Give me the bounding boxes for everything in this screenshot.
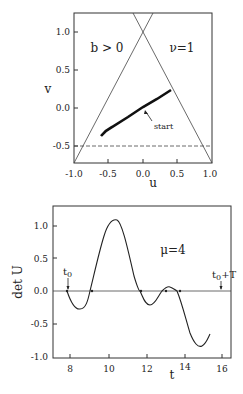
bottom-ytick-1: 1.0 xyxy=(34,221,49,231)
bottom-plot-frame xyxy=(53,206,231,358)
top-ytick-3: 0.0 xyxy=(56,103,71,113)
right-boundary-line xyxy=(133,13,212,163)
t0-label: t0 xyxy=(63,266,72,279)
top-plot: 1.0 0.5 0.0 -0.5 -1.0 -0.5 0.0 0.5 1.0 v… xyxy=(44,13,218,190)
top-xtick-2: -0.5 xyxy=(99,169,117,179)
left-boundary-line xyxy=(74,13,153,163)
bottom-plot: 1.0 0.5 0.0 -0.5 -1.0 8 10 12 14 16 det … xyxy=(11,206,237,382)
bottom-ytick-5: -1.0 xyxy=(31,352,49,362)
region-label: b > 0 xyxy=(91,41,124,55)
t0T-label: t0+T xyxy=(212,269,237,282)
top-xtick-5: 1.0 xyxy=(203,169,218,179)
top-ytick-1: 1.0 xyxy=(56,27,71,37)
top-xtick-1: -1.0 xyxy=(65,169,83,179)
mu-label: μ=4 xyxy=(160,243,186,257)
bottom-ylabel: det U xyxy=(11,265,25,299)
top-xtick-4: 0.5 xyxy=(170,169,185,179)
top-plot-frame xyxy=(74,13,212,163)
bottom-xtick-3: 12 xyxy=(141,364,152,374)
top-ytick-2: 0.5 xyxy=(56,65,71,75)
nu-label: ν=1 xyxy=(170,41,195,55)
bottom-xtick-4: 14 xyxy=(179,362,191,372)
top-ytick-4: -0.5 xyxy=(53,141,71,151)
bottom-ytick-2: 0.5 xyxy=(34,254,49,264)
bottom-xtick-2: 10 xyxy=(103,364,115,374)
bottom-xtick-5: 16 xyxy=(216,364,228,374)
bottom-xlabel: t xyxy=(170,368,175,382)
bottom-ytick-4: -0.5 xyxy=(31,319,49,329)
start-label: start xyxy=(154,122,174,131)
top-ylabel: v xyxy=(44,82,52,96)
bottom-xtick-1: 8 xyxy=(67,364,73,374)
figure: 1.0 0.5 0.0 -0.5 -1.0 -0.5 0.0 0.5 1.0 v… xyxy=(0,0,243,394)
det-u-curve xyxy=(67,220,210,347)
top-xlabel: u xyxy=(149,176,157,190)
bottom-ytick-3: 0.0 xyxy=(34,286,49,296)
